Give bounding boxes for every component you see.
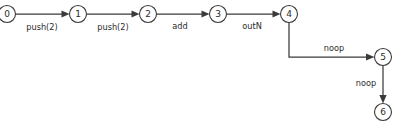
edge-5-to-6-label: noop	[356, 78, 376, 88]
edge-1-to-2-arrowhead	[132, 11, 140, 18]
edge-0-to-1-label: push(2)	[26, 22, 57, 32]
node-5-label: 5	[380, 52, 386, 62]
edge-0-to-1: push(2)	[16, 11, 70, 32]
node-6-label: 6	[380, 107, 386, 117]
edge-1-to-2-label: push(2)	[97, 22, 128, 32]
node-4-label: 4	[286, 9, 292, 19]
edge-3-to-4: outN	[227, 11, 281, 31]
edge-2-to-3: add	[157, 11, 210, 31]
state-machine-diagram: push(2) push(2) add outN noop	[0, 0, 400, 125]
edge-5-to-6-arrowhead	[379, 95, 386, 104]
edge-4-to-5: noop	[289, 23, 375, 61]
edge-4-to-5-label: noop	[324, 43, 344, 53]
diagram-canvas: push(2) push(2) add outN noop	[0, 0, 400, 125]
edge-1-to-2: push(2)	[87, 11, 140, 32]
node-0-label: 0	[4, 9, 10, 19]
edge-4-to-5-arrowhead	[366, 53, 375, 60]
node-1-label: 1	[75, 9, 81, 19]
edge-5-to-6: noop	[356, 66, 387, 104]
node-0[interactable]: 0	[0, 6, 16, 23]
node-1[interactable]: 1	[70, 6, 87, 23]
node-2-label: 2	[145, 9, 151, 19]
node-6[interactable]: 6	[375, 104, 392, 121]
node-2[interactable]: 2	[140, 6, 157, 23]
edge-2-to-3-label: add	[172, 21, 187, 31]
node-5[interactable]: 5	[375, 49, 392, 66]
node-4[interactable]: 4	[281, 6, 298, 23]
edge-2-to-3-arrowhead	[202, 11, 210, 18]
edge-0-to-1-arrowhead	[62, 11, 70, 18]
edge-3-to-4-label: outN	[242, 21, 262, 31]
edge-3-to-4-arrowhead	[273, 11, 281, 18]
node-3-label: 3	[215, 9, 221, 19]
node-3[interactable]: 3	[210, 6, 227, 23]
